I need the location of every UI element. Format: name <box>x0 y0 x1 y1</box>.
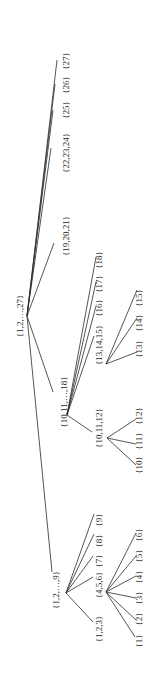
tree-node-label-n3: {3} <box>134 591 144 604</box>
tree-node-label-n17: {17} <box>94 275 104 293</box>
tree-node-label-n2: {2} <box>134 612 144 625</box>
tree-node-label-n14: {14} <box>134 314 144 332</box>
tree-node-label-n25: {25} <box>61 101 71 119</box>
tree-node-label-n11: {11} <box>134 432 144 449</box>
tree-node-label-n16: {16} <box>94 299 104 317</box>
tree-node-label-n10: {10} <box>134 456 144 474</box>
tree-edge-n4_6-n5 <box>106 556 136 592</box>
tree-node-label-n22_24: {22,23,24} <box>61 133 71 173</box>
tree-node-label-n8: {8} <box>94 534 104 547</box>
tree-node-label-n19_21: {19,20,21} <box>61 216 71 256</box>
tree-edge-root-n1_9 <box>27 316 52 572</box>
tree-edge-n10_12-n11 <box>107 438 136 444</box>
tree-node-label-n18: {18} <box>94 251 104 269</box>
tree-edge-n13_15-n15 <box>106 290 137 364</box>
tree-edges <box>27 60 137 637</box>
tree-node-label-n9: {9} <box>94 513 104 526</box>
tree-edge-n10_18-n17 <box>67 282 96 415</box>
tree-node-label-n1: {1} <box>134 634 144 647</box>
tree-edge-root-n25 <box>27 110 53 316</box>
tree-edge-n4_6-n3 <box>106 592 136 598</box>
tree-node-label-n12: {12} <box>134 407 144 425</box>
tree-edge-n10_18-n13_15 <box>67 336 94 415</box>
tree-edge-n10_18-n16 <box>67 306 96 415</box>
tree-node-label-n1_3: {1,2,3} <box>94 616 104 643</box>
tree-node-label-n13: {13} <box>134 340 144 358</box>
tree-edge-n10_12-n10 <box>107 438 136 465</box>
tree-node-label-n7: {7} <box>94 554 104 567</box>
tree-node-label-n15: {15} <box>134 289 144 307</box>
partition-tree-diagram: {1,2,…,27}{27}{26}{25}{22,23,24}{19,20,2… <box>0 0 159 678</box>
tree-edge-n10_12-n12 <box>107 419 136 438</box>
tree-edge-root-n22_24 <box>27 148 51 316</box>
tree-node-labels: {1,2,…,27}{27}{26}{25}{22,23,24}{19,20,2… <box>15 52 144 647</box>
tree-edge-n10_18-n18 <box>67 257 96 415</box>
tree-edge-n1_9-n8 <box>66 534 94 593</box>
tree-node-label-n27: {27} <box>61 52 71 70</box>
tree-edge-n1_9-n7 <box>66 556 93 593</box>
tree-node-label-n4_6: {4,5,6} <box>94 572 104 599</box>
tree-node-label-n4: {4} <box>134 570 144 583</box>
tree-node-label-n13_15: {13,14,15} <box>94 325 104 365</box>
tree-node-label-n6: {6} <box>134 528 144 541</box>
tree-node-label-n26: {26} <box>61 76 71 94</box>
tree-node-label-root: {1,2,…,27} <box>15 295 25 337</box>
tree-edge-n1_9-n1_3 <box>66 593 93 622</box>
tree-node-label-n10_12: {10,11,12} <box>94 408 104 448</box>
tree-node-label-n1_9: {1,2,…,9} <box>51 571 61 609</box>
tree-edge-n4_6-n6 <box>106 533 136 592</box>
tree-node-label-n10_18: {10,11,…,18} <box>59 376 69 427</box>
tree-edge-n10_18-n10_12 <box>67 415 92 432</box>
tree-edge-n13_15-n14 <box>106 318 137 364</box>
tree-node-label-n5: {5} <box>134 549 144 562</box>
tree-edge-n1_9-n9 <box>66 514 94 593</box>
